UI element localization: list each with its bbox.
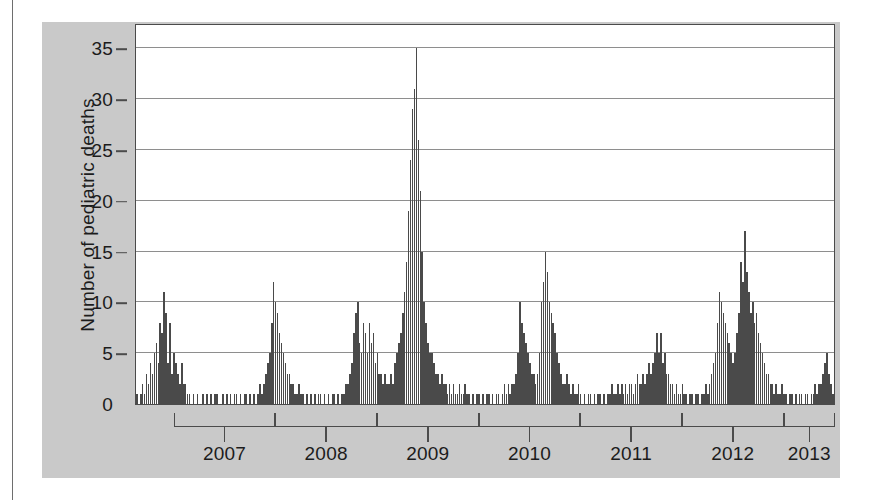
bar xyxy=(785,394,787,404)
bar xyxy=(482,394,484,404)
year-bracket-2009 xyxy=(377,413,479,427)
bar xyxy=(807,394,809,404)
x-year-label-2011: 2011 xyxy=(610,443,652,465)
year-centertick-2012 xyxy=(732,427,734,442)
year-centertick-2009 xyxy=(427,427,429,442)
year-bracket-2012 xyxy=(682,413,784,427)
page-margin-rule xyxy=(12,0,13,500)
y-tick-mark-20 xyxy=(116,201,127,203)
bar xyxy=(249,394,251,404)
bar xyxy=(472,394,474,404)
bar xyxy=(222,394,224,404)
year-centertick-2011 xyxy=(630,427,632,442)
bar-series-pediatric-deaths xyxy=(136,25,834,404)
y-tick-mark-35 xyxy=(116,49,127,51)
bar xyxy=(498,394,500,404)
x-year-label-2013: 2013 xyxy=(788,443,831,465)
year-centertick-2008 xyxy=(325,427,327,442)
x-year-label-2008: 2008 xyxy=(305,443,348,465)
y-tick-mark-5 xyxy=(116,353,127,355)
bar xyxy=(584,394,586,404)
bar xyxy=(230,394,232,404)
bar xyxy=(791,394,793,404)
x-year-label-2012: 2012 xyxy=(711,443,754,465)
bar xyxy=(478,394,480,404)
year-centertick-2013 xyxy=(809,427,811,442)
y-tick-mark-30 xyxy=(116,99,127,101)
year-bracket-2010 xyxy=(479,413,581,427)
y-tick-label-35: 35 xyxy=(91,38,113,60)
x-year-label-2007: 2007 xyxy=(203,443,246,465)
bar xyxy=(685,394,687,404)
bar xyxy=(328,394,330,404)
bar xyxy=(314,394,316,404)
bar xyxy=(594,394,596,404)
bar xyxy=(245,394,247,404)
bar xyxy=(320,394,322,404)
bar xyxy=(226,394,228,404)
year-bracket-2008 xyxy=(275,413,377,427)
bar xyxy=(206,394,208,404)
bar xyxy=(236,394,238,404)
bar xyxy=(795,394,797,404)
bar xyxy=(691,394,693,404)
bar xyxy=(580,394,582,404)
y-tick-label-5: 5 xyxy=(102,343,113,365)
plot-area xyxy=(135,24,835,405)
y-axis-title: Number of pediatric deaths xyxy=(77,65,99,365)
bar xyxy=(603,394,605,404)
y-tick-label-0: 0 xyxy=(102,394,113,416)
bar xyxy=(197,394,199,404)
year-centertick-2010 xyxy=(529,427,531,442)
bar xyxy=(333,394,335,404)
bar xyxy=(210,394,212,404)
bar xyxy=(240,394,242,404)
year-bracket-2011 xyxy=(580,413,682,427)
x-axis: 2007200820092010201120122013 xyxy=(135,405,835,480)
bar xyxy=(202,394,204,404)
bar xyxy=(193,394,195,404)
year-bracket-2007 xyxy=(174,413,276,427)
year-centertick-2007 xyxy=(224,427,226,442)
bar xyxy=(302,394,304,404)
bar xyxy=(253,394,255,404)
x-year-label-2009: 2009 xyxy=(406,443,449,465)
bar xyxy=(468,394,470,404)
bar xyxy=(590,394,592,404)
y-tick-mark-25 xyxy=(116,150,127,152)
bar xyxy=(337,394,339,404)
bar xyxy=(310,394,312,404)
bar xyxy=(216,394,218,404)
bar xyxy=(488,394,490,404)
bar xyxy=(492,394,494,404)
bar xyxy=(306,394,308,404)
y-axis-title-container: Number of pediatric deaths xyxy=(56,24,82,405)
bar xyxy=(324,394,326,404)
bar xyxy=(801,394,803,404)
year-bracket-2013 xyxy=(784,413,835,427)
bar xyxy=(599,394,601,404)
bar xyxy=(697,394,699,404)
y-tick-mark-10 xyxy=(116,303,127,305)
bar xyxy=(189,394,191,404)
x-year-label-2010: 2010 xyxy=(508,443,551,465)
y-tick-mark-15 xyxy=(116,252,127,254)
